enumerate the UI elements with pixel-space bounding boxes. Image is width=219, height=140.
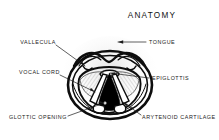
label-arytenoid-cartilage: ARYTENOID CARTILAGE [142,114,216,120]
anatomy-illustration: ANATOMY [0,0,219,140]
anatomy-figure-page: ANATOMY [0,0,219,140]
label-epiglottis: EPIGLOTTIS [152,75,189,81]
label-glottic-opening: GLOTTIC OPENING [9,114,67,120]
label-tongue: TONGUE [149,39,175,45]
label-vocal-cord: VOCAL CORD [19,69,60,75]
label-vallecula: VALLECULA [20,39,56,45]
figure-title: ANATOMY [128,11,176,20]
